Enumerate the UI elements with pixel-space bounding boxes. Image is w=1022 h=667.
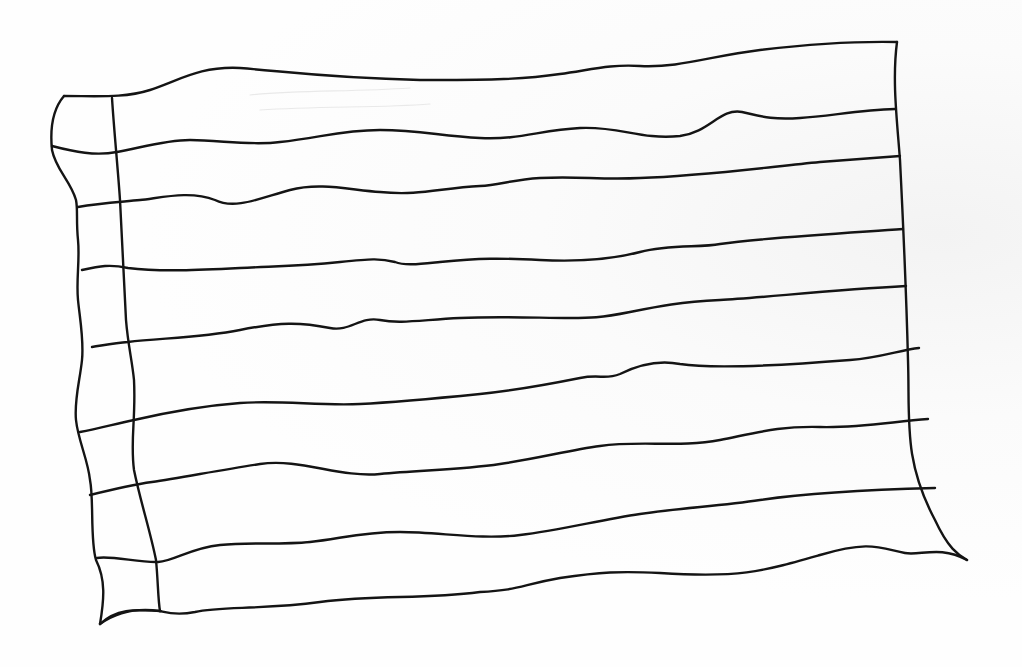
stripe-divider <box>82 229 903 270</box>
stripe-divider <box>92 286 906 347</box>
stripe-divider <box>97 488 935 562</box>
flag-hoist-edge <box>51 96 103 624</box>
stripe-divider <box>80 348 919 432</box>
drawing-canvas <box>0 0 1022 667</box>
stripe-divider <box>52 109 895 154</box>
flag-fly-edge <box>895 42 967 560</box>
flag-top-edge <box>64 42 897 96</box>
stripe-dividers <box>52 109 935 624</box>
stripe-divider <box>90 419 928 495</box>
flag-bottom-edge <box>160 546 967 613</box>
ghost-mark <box>250 88 410 95</box>
hoist-divider-line <box>112 98 160 611</box>
bleed-through-marks <box>250 88 430 110</box>
flag-sketch-illustration <box>0 0 1022 667</box>
stripe-divider <box>78 156 900 207</box>
ghost-mark <box>260 104 430 110</box>
